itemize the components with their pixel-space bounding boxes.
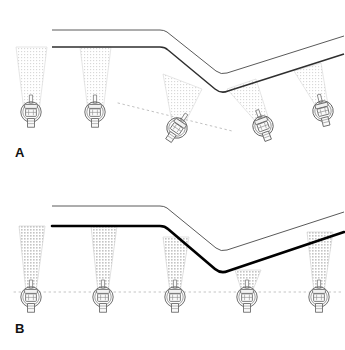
panel-label-b: B: [15, 322, 25, 335]
panel-b: [0, 175, 345, 350]
figure-root: A B: [0, 0, 345, 350]
panel-b-drawing: [0, 175, 345, 350]
beam-cone: [227, 79, 269, 123]
light-fixture[interactable]: [21, 280, 41, 312]
light-fixture[interactable]: [165, 280, 185, 312]
panel-a-drawing: [0, 0, 345, 175]
panel-a: [0, 0, 345, 175]
beam-group-a: [16, 47, 328, 127]
light-fixture[interactable]: [309, 280, 329, 312]
fixture-group-b: [21, 280, 329, 312]
light-fixture[interactable]: [93, 280, 113, 312]
panel-label-a: A: [15, 146, 25, 159]
